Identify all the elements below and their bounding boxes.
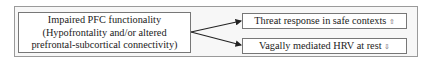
target-label: Threat response in safe contexts (254, 15, 386, 26)
down-arrow-icon: ⇩ (384, 43, 390, 51)
connector-arrows (0, 0, 433, 64)
arrow-to-hrv (191, 32, 241, 45)
target-node-vagal-hrv: Vagally mediated HRV at rest ⇩ (242, 38, 407, 54)
arrow-to-threat-response (191, 21, 241, 32)
target-label: Vagally mediated HRV at rest (259, 40, 382, 51)
target-node-threat-response: Threat response in safe contexts ⇧ (242, 13, 407, 29)
up-arrow-icon: ⇧ (389, 18, 395, 26)
